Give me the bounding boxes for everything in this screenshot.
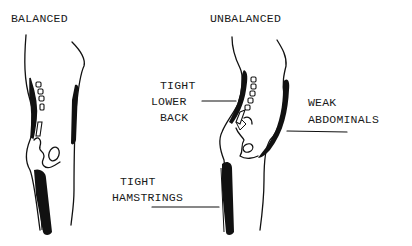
balanced-abdominal-muscle-icon: [71, 85, 78, 145]
label-tight-hamstrings-2: HAMSTRINGS: [112, 191, 183, 204]
label-weak: WEAK: [308, 96, 336, 109]
posture-diagram: BALANCED UNBALANCED TIGHT LOWER BACK WEA…: [0, 0, 412, 246]
panel-title-unbalanced: UNBALANCED: [210, 12, 281, 25]
label-back: BACK: [160, 111, 188, 124]
panel-title-balanced: BALANCED: [11, 12, 68, 25]
label-lower: LOWER: [151, 95, 187, 108]
balanced-vertebrae-icon: [36, 82, 44, 136]
label-abdominals: ABDOMINALS: [308, 113, 379, 126]
label-tight: TIGHT: [160, 79, 196, 92]
balanced-back-muscle-icon: [30, 78, 37, 138]
label-tight-hamstrings-1: TIGHT: [120, 175, 156, 188]
unbalanced-abdominal-muscle-icon: [258, 79, 289, 158]
